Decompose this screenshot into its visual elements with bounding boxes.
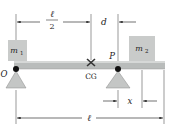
mass-m1-block: m 1 xyxy=(8,40,27,61)
cg-label: CG xyxy=(85,72,97,81)
m1-subscript: 1 xyxy=(20,50,24,56)
m2-subscript: 2 xyxy=(145,48,149,54)
pivot-o-label: O xyxy=(1,69,8,79)
m1-label: m xyxy=(10,46,18,55)
support-p xyxy=(106,66,130,88)
half-length-denominator: 2 xyxy=(49,22,54,31)
mass-m2-block: m 2 xyxy=(129,36,155,61)
pivot-p-label: P xyxy=(108,51,115,61)
half-length-numerator: ℓ xyxy=(50,9,54,19)
offset-x-label: x xyxy=(128,96,133,106)
m2-label: m xyxy=(135,44,143,53)
support-o xyxy=(6,66,26,88)
length-label: ℓ xyxy=(87,113,91,123)
beam-diagram: ℓ 2 d m 1 m 2 CG P O xyxy=(0,0,172,133)
offset-d-label: d xyxy=(101,17,107,27)
